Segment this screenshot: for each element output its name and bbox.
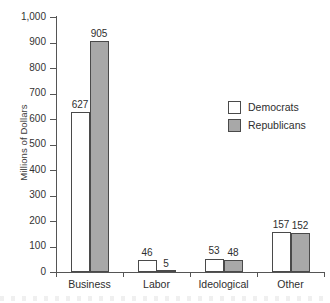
chart-legend: DemocratsRepublicans	[228, 98, 306, 134]
y-axis-tick-label: 200	[29, 215, 46, 226]
bar-democrats-business	[71, 112, 90, 272]
y-axis-tick-mark: 1,000	[50, 17, 56, 18]
scan-artifact-row	[0, 296, 330, 301]
y-axis-tick-mark: 800	[50, 68, 56, 69]
bar-value-label: 627	[72, 99, 89, 110]
y-axis-tick-mark: 200	[50, 221, 56, 222]
y-axis-tick-mark: 700	[50, 94, 56, 95]
y-axis-line	[56, 16, 57, 273]
y-axis-tick-label: 300	[29, 189, 46, 200]
bar-value-label: 53	[208, 245, 219, 256]
y-axis-tick-mark: 900	[50, 43, 56, 44]
legend-item-democrats: Democrats	[228, 98, 306, 116]
y-axis-tick-label: 800	[29, 62, 46, 73]
category-label-business: Business	[68, 278, 111, 290]
legend-item-republicans: Republicans	[228, 116, 306, 134]
bar-value-label: 905	[91, 28, 108, 39]
bar-democrats-labor	[138, 260, 157, 272]
legend-label: Democrats	[248, 101, 299, 113]
x-axis-tick-mark	[257, 272, 258, 277]
white-square-swatch	[228, 101, 241, 114]
gray-square-swatch	[228, 119, 241, 132]
y-axis-tick-label: 100	[29, 240, 46, 251]
y-axis-tick-label: 0	[40, 266, 46, 277]
y-axis-tick-label: 500	[29, 138, 46, 149]
y-axis-tick-mark: 500	[50, 145, 56, 146]
bar-value-label: 157	[273, 219, 290, 230]
y-axis-tick-mark: 100	[50, 247, 56, 248]
x-axis-tick-mark	[56, 272, 57, 277]
bar-republicans-business	[90, 41, 109, 272]
category-label-other: Other	[277, 278, 303, 290]
y-axis-tick-label: 600	[29, 113, 46, 124]
y-axis-tick-label: 900	[29, 36, 46, 47]
bar-value-label: 48	[227, 247, 238, 258]
category-label-ideological: Ideological	[198, 278, 248, 290]
bar-value-label: 152	[292, 220, 309, 231]
bar-chart-figure: Millions of Dollars 01002003004005006007…	[0, 0, 330, 303]
category-label-labor: Labor	[143, 278, 170, 290]
plot-area: 01002003004005006007008009001,000 627905…	[56, 17, 324, 272]
y-axis-title: Millions of Dollars	[18, 73, 29, 213]
y-axis-tick-mark: 600	[50, 119, 56, 120]
y-axis-tick-label: 1,000	[21, 11, 46, 22]
bar-republicans-labor	[157, 270, 176, 272]
x-axis-tick-mark	[324, 272, 325, 277]
bar-republicans-ideological	[224, 260, 243, 272]
bar-democrats-ideological	[205, 259, 224, 273]
bar-democrats-other	[272, 232, 291, 272]
bar-value-label: 46	[141, 247, 152, 258]
y-axis-tick-label: 400	[29, 164, 46, 175]
y-axis-tick-mark: 300	[50, 196, 56, 197]
x-axis-tick-mark	[123, 272, 124, 277]
y-axis-tick-label: 700	[29, 87, 46, 98]
bar-republicans-other	[291, 233, 310, 272]
y-axis-tick-mark: 400	[50, 170, 56, 171]
x-axis-tick-mark	[190, 272, 191, 277]
legend-label: Republicans	[248, 119, 306, 131]
bar-value-label: 5	[163, 258, 169, 269]
